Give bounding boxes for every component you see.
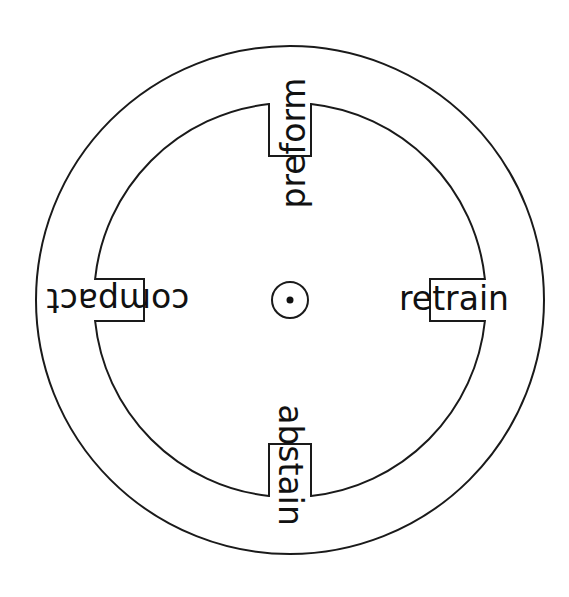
- center-dot-icon: [287, 297, 294, 304]
- word-bottom: abstain: [271, 404, 310, 526]
- word-left: compact: [47, 281, 190, 320]
- word-right: retrain: [399, 279, 509, 318]
- word-top: preform: [274, 77, 313, 208]
- word-wheel-diagram: preform retrain abstain compact: [0, 0, 569, 597]
